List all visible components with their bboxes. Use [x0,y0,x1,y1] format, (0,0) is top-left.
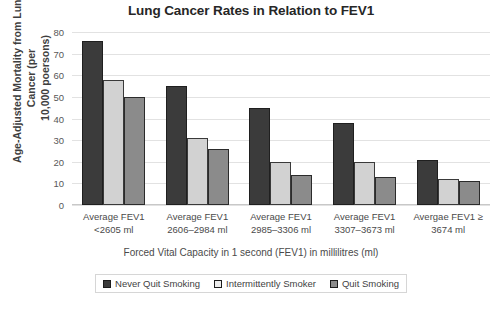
bar[interactable] [291,175,312,205]
x-axis-category-label: Average FEV13307–3673 ml [323,210,407,236]
x-axis-category-label: Average FEV12606–2984 ml [156,210,240,236]
x-category-line1: Avergae FEV1 ≥ [413,211,482,222]
legend-swatch-icon [214,280,222,288]
x-category-line2: 3674 ml [406,223,490,236]
x-axis-title: Forced Vital Capacity in 1 second (FEV1)… [0,247,502,258]
bar[interactable] [333,123,354,205]
y-axis-tick-label: 40 [42,113,64,124]
x-category-line1: Average FEV1 [334,211,396,222]
bar[interactable] [270,162,291,205]
bar[interactable] [249,108,270,205]
x-category-line2: 3307–3673 ml [323,223,407,236]
legend-label: Intermittently Smoker [226,278,316,289]
chart-title: Lung Cancer Rates in Relation to FEV1 [0,3,502,18]
bar-group [72,32,156,205]
bar[interactable] [459,181,480,205]
gridline [72,205,490,206]
x-axis-category-label: Avergae FEV1 ≥3674 ml [406,210,490,236]
y-axis-tick-label: 80 [42,27,64,38]
lung-cancer-bar-chart: Lung Cancer Rates in Relation to FEV1 Ag… [0,0,502,316]
legend-swatch-icon [330,280,338,288]
bar-group [156,32,240,205]
chart-legend: Never Quit SmokingIntermittently SmokerQ… [95,274,407,293]
legend-swatch-icon [103,280,111,288]
bar[interactable] [208,149,229,205]
bar[interactable] [166,86,187,205]
x-category-line2: 2985–3306 ml [239,223,323,236]
y-axis-tick-label: 20 [42,156,64,167]
y-axis-tick-label: 0 [42,200,64,211]
bar[interactable] [187,138,208,205]
y-axis-tick-label: 50 [42,91,64,102]
x-category-line1: Average FEV1 [250,211,312,222]
x-category-line2: <2605 ml [72,223,156,236]
bar[interactable] [375,177,396,205]
y-axis-tick-label: 30 [42,135,64,146]
bar[interactable] [103,80,124,205]
y-axis-title-line1: Age-Adjusted Mortality from Lung Cancer … [11,0,37,163]
legend-item[interactable]: Quit Smoking [330,278,399,289]
y-axis-tick-label: 60 [42,70,64,81]
bar[interactable] [417,160,438,205]
bar[interactable] [354,162,375,205]
bar[interactable] [82,41,103,205]
x-category-line2: 2606–2984 ml [156,223,240,236]
legend-item[interactable]: Never Quit Smoking [103,278,200,289]
bar[interactable] [124,97,145,205]
y-axis-ticks: 80706050403020100 [38,32,64,205]
x-axis-category-label: Average FEV12985–3306 ml [239,210,323,236]
y-axis-tick-label: 10 [42,178,64,189]
legend-label: Never Quit Smoking [115,278,200,289]
plot-area [72,32,490,205]
x-category-line1: Average FEV1 [83,211,145,222]
x-axis-category-label: Average FEV1<2605 ml [72,210,156,236]
bar[interactable] [438,179,459,205]
legend-label: Quit Smoking [342,278,399,289]
bar-group [323,32,407,205]
bar-group [239,32,323,205]
legend-item[interactable]: Intermittently Smoker [214,278,316,289]
bar-group [406,32,490,205]
x-category-line1: Average FEV1 [167,211,229,222]
y-axis-tick-label: 70 [42,48,64,59]
x-axis-category-labels: Average FEV1<2605 mlAverage FEV12606–298… [72,210,490,240]
